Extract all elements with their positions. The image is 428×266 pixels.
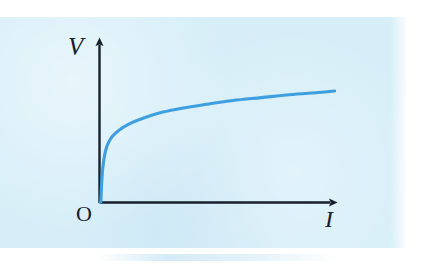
- figure-root: V I O: [0, 0, 428, 266]
- x-axis-label: I: [325, 207, 333, 231]
- origin-label: O: [76, 203, 92, 225]
- vi-curve: [100, 91, 334, 202]
- y-axis-label: V: [68, 34, 83, 59]
- vi-characteristic-plot: [0, 0, 428, 266]
